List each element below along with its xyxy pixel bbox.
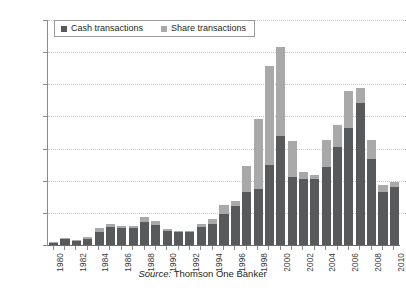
x-axis-tick [291, 246, 292, 250]
bar-segment-cash-transactions [49, 243, 58, 245]
bar-column [288, 20, 297, 245]
bar-segment-share-transactions [333, 125, 342, 146]
bar-segment-cash-transactions [185, 232, 194, 245]
plot-area [47, 20, 400, 246]
source-note: Source: Thomson One Banker [0, 268, 405, 279]
bar-series-container [48, 20, 400, 245]
bar-segment-share-transactions [276, 47, 285, 136]
bar-column [299, 20, 308, 245]
x-axis-tick [189, 246, 190, 250]
bar-segment-share-transactions [219, 205, 228, 215]
x-axis-tick [325, 246, 326, 250]
bar-column [265, 20, 274, 245]
y-axis-tick [43, 149, 48, 150]
bar-segment-share-transactions [356, 88, 365, 103]
bar-segment-share-transactions [322, 140, 331, 167]
chart-legend: Cash transactions Share transactions [54, 20, 255, 37]
bar-column [117, 20, 126, 245]
x-axis-tick [109, 246, 110, 250]
x-axis-tick [314, 246, 315, 250]
x-axis-tick [144, 246, 145, 250]
bar-column [344, 20, 353, 245]
bar-segment-cash-transactions [83, 239, 92, 245]
y-axis-tick [43, 20, 48, 21]
bar-column [106, 20, 115, 245]
chart-title [0, 0, 405, 3]
x-axis-tick [53, 246, 54, 250]
bar-column [174, 20, 183, 245]
bar-column [356, 20, 365, 245]
x-axis-tick [382, 246, 383, 250]
x-axis-tick [121, 246, 122, 250]
x-axis-tick [359, 246, 360, 250]
legend-label-share: Share transactions [171, 24, 246, 33]
legend-label-cash: Cash transactions [71, 24, 143, 33]
legend-swatch-share-icon [161, 26, 167, 32]
bar-segment-cash-transactions [106, 227, 115, 245]
bar-column [129, 20, 138, 245]
x-axis: 1980198219841986198819901992199419961998… [47, 246, 399, 286]
bar-segment-cash-transactions [288, 177, 297, 245]
x-axis-tick [337, 246, 338, 250]
bar-column [72, 20, 81, 245]
bar-segment-cash-transactions [242, 192, 251, 245]
bar-segment-cash-transactions [390, 187, 399, 245]
bar-segment-cash-transactions [367, 159, 376, 245]
x-axis-tick [246, 246, 247, 250]
bar-segment-cash-transactions [117, 228, 126, 245]
bar-segment-share-transactions [288, 141, 297, 177]
bar-segment-cash-transactions [299, 179, 308, 245]
source-text: Thomson One Banker [174, 268, 267, 279]
bar-segment-cash-transactions [140, 222, 149, 245]
x-axis-tick [371, 246, 372, 250]
bar-segment-cash-transactions [163, 231, 172, 245]
bar-segment-cash-transactions [208, 224, 217, 245]
bar-column [185, 20, 194, 245]
bar-segment-share-transactions [254, 119, 263, 189]
bar-column [208, 20, 217, 245]
legend-swatch-cash-icon [61, 26, 67, 32]
bar-segment-cash-transactions [197, 227, 206, 245]
bar-segment-cash-transactions [72, 241, 81, 245]
y-axis-tick [43, 52, 48, 53]
bar-segment-cash-transactions [219, 214, 228, 245]
x-axis-tick [257, 246, 258, 250]
bar-segment-cash-transactions [265, 165, 274, 245]
x-axis-tick [212, 246, 213, 250]
bar-column [83, 20, 92, 245]
bar-column [276, 20, 285, 245]
bar-column [254, 20, 263, 245]
bar-column [333, 20, 342, 245]
x-axis-tick [200, 246, 201, 250]
bar-segment-cash-transactions [356, 103, 365, 245]
bar-segment-cash-transactions [333, 147, 342, 245]
bar-segment-cash-transactions [60, 239, 69, 245]
bar-column [163, 20, 172, 245]
bar-column [310, 20, 319, 245]
legend-item-cash-transactions: Cash transactions [61, 24, 143, 33]
legend-item-share-transactions: Share transactions [161, 24, 246, 33]
bar-column [60, 20, 69, 245]
bar-column [151, 20, 160, 245]
bar-column [140, 20, 149, 245]
x-axis-tick [132, 246, 133, 250]
x-axis-tick [166, 246, 167, 250]
bar-segment-cash-transactions [310, 179, 319, 245]
x-axis-tick [87, 246, 88, 250]
bar-column [242, 20, 251, 245]
bar-segment-cash-transactions [322, 167, 331, 245]
bar-segment-cash-transactions [174, 232, 183, 245]
bar-column [231, 20, 240, 245]
x-axis-tick [234, 246, 235, 250]
bar-segment-cash-transactions [378, 192, 387, 245]
y-axis-tick [43, 116, 48, 117]
bar-segment-share-transactions [378, 185, 387, 192]
bar-column [367, 20, 376, 245]
bar-column [49, 20, 58, 245]
x-axis-tick [64, 246, 65, 250]
x-axis-tick [393, 246, 394, 250]
bar-column [95, 20, 104, 245]
x-axis-tick [268, 246, 269, 250]
bar-column [219, 20, 228, 245]
